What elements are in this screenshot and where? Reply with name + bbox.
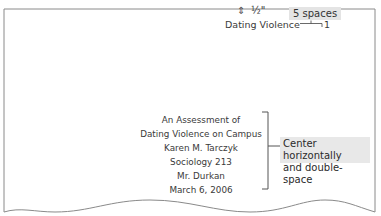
running-head-text: Dating Violence: [225, 19, 300, 30]
up-down-arrow-icon: ⇕: [237, 5, 245, 16]
date: March 6, 2006: [134, 183, 268, 197]
paper-title-line-2: Dating Violence on Campus: [134, 127, 268, 141]
page-number: 1: [324, 19, 330, 30]
center-double-space-callout: Center horizontally and double-space: [280, 137, 370, 163]
paper-title-line-1: An Assessment of: [134, 113, 268, 127]
callout-line-2: and double-space: [283, 162, 370, 186]
author-name: Karen M. Tarczyk: [134, 141, 268, 155]
callout-line-1: Center horizontally: [283, 138, 370, 162]
title-page-block: An Assessment of Dating Violence on Camp…: [134, 113, 268, 197]
course-name: Sociology 213: [134, 155, 268, 169]
instructor-name: Mr. Durkan: [134, 169, 268, 183]
half-inch-margin-label: ½": [251, 5, 265, 16]
